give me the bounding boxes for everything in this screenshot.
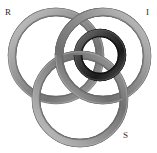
rings-diagram	[0, 0, 157, 153]
ring-label-i: I	[146, 8, 149, 17]
ring-label-s: S	[123, 131, 128, 140]
interlocked-rings-figure: R I S	[0, 0, 157, 153]
ring-label-r: R	[5, 8, 11, 17]
